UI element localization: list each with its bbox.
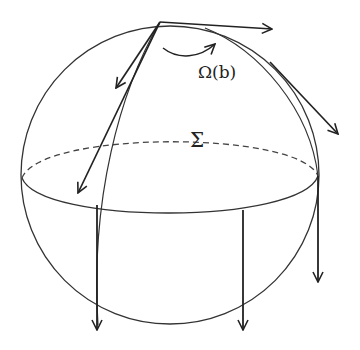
tangent-arrow-right: [160, 22, 272, 29]
sigma-label: Σ: [190, 128, 204, 152]
tangent-arrow-left-short: [116, 22, 160, 88]
sphere-outline: [21, 26, 319, 324]
equator-back-dashed: [22, 142, 318, 178]
meridian-right: [205, 28, 318, 176]
tangent-arrow-upper-right: [270, 62, 338, 134]
equator-front-solid: [22, 176, 318, 213]
omega-label: Ω(b): [198, 62, 236, 82]
sphere-diagram: [0, 0, 360, 350]
meridian-curve: [97, 22, 160, 325]
diagram-canvas: Ω(b) Σ: [0, 0, 360, 350]
tangent-arrow-left-long: [78, 22, 160, 193]
rotation-arrow: [163, 44, 215, 56]
